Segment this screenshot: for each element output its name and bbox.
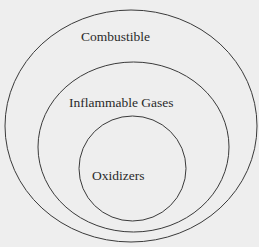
label-combustible: Combustible bbox=[81, 29, 150, 44]
label-inflammable-gases: Inflammable Gases bbox=[69, 95, 174, 110]
combustible-ellipse bbox=[5, 10, 257, 242]
nested-sets-diagram: Combustible Inflammable Gases Oxidizers bbox=[0, 0, 259, 247]
label-oxidizers: Oxidizers bbox=[92, 168, 144, 183]
inflammable-gases-ellipse bbox=[38, 62, 229, 232]
